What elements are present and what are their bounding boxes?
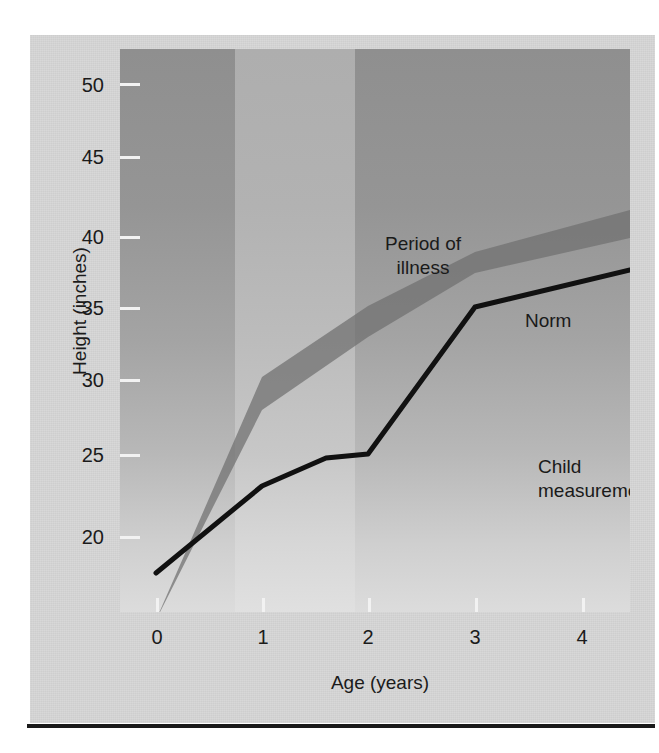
x-tick-label-0: 0	[140, 626, 174, 649]
bottom-rule	[27, 724, 655, 728]
y-tick-label-20: 20	[58, 526, 104, 549]
y-tick-label-45: 45	[58, 146, 104, 169]
y-axis-title: Height (inches)	[69, 191, 91, 431]
x-tick-label-3: 3	[458, 626, 492, 649]
x-tick-label-1: 1	[246, 626, 280, 649]
x-tick-label-4: 4	[565, 626, 599, 649]
growth-chart-figure: 50 45 40 35 30 25 20 Height (inches) 0 1…	[0, 0, 659, 753]
annotation-child-measurements: Child measurements	[538, 455, 630, 503]
annotation-period-of-illness: Period of illness	[368, 232, 478, 280]
plot-area: Period of illness Norm Child measurement…	[120, 49, 630, 612]
y-tick-label-25: 25	[58, 444, 104, 467]
annotation-norm: Norm	[525, 309, 571, 333]
x-tick-label-2: 2	[351, 626, 385, 649]
y-tick-label-50: 50	[58, 74, 104, 97]
x-axis-title: Age (years)	[280, 672, 480, 694]
